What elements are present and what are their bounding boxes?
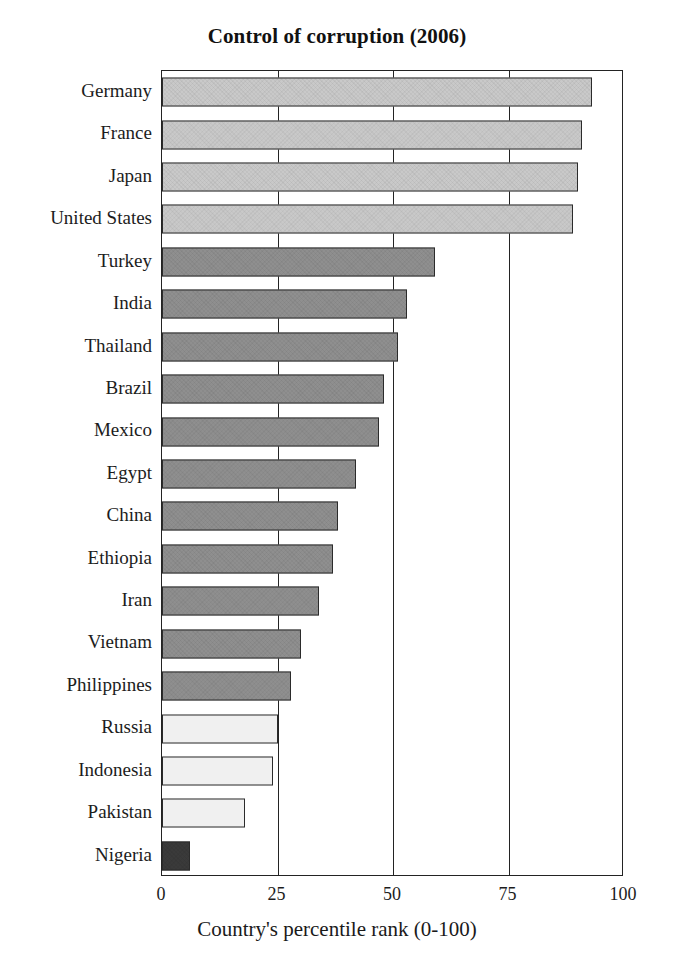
bar-mexico xyxy=(162,417,379,446)
category-label-nigeria: Nigeria xyxy=(95,834,152,876)
bar-germany xyxy=(162,78,592,107)
category-label-vietnam: Vietnam xyxy=(88,621,152,663)
plot-area xyxy=(161,70,623,876)
bar-row xyxy=(162,580,622,622)
x-axis-tick-labels: 0255075100 xyxy=(0,884,674,914)
bar-japan xyxy=(162,163,578,192)
bar-indonesia xyxy=(162,756,273,785)
category-label-brazil: Brazil xyxy=(106,367,152,409)
category-label-pakistan: Pakistan xyxy=(88,791,152,833)
bar-row xyxy=(162,835,622,877)
bar-egypt xyxy=(162,459,356,488)
category-label-united-states: United States xyxy=(50,197,152,239)
bar-thailand xyxy=(162,332,398,361)
bar-china xyxy=(162,502,338,531)
category-label-indonesia: Indonesia xyxy=(78,749,152,791)
category-label-philippines: Philippines xyxy=(66,664,152,706)
bar-pakistan xyxy=(162,799,245,828)
bar-philippines xyxy=(162,672,291,701)
bar-row xyxy=(162,453,622,495)
category-label-russia: Russia xyxy=(101,706,152,748)
category-label-france: France xyxy=(100,112,152,154)
bar-row xyxy=(162,156,622,198)
x-tick-75: 75 xyxy=(499,884,517,905)
bar-ethiopia xyxy=(162,544,333,573)
bar-row xyxy=(162,792,622,834)
category-label-iran: Iran xyxy=(121,579,152,621)
bar-row xyxy=(162,241,622,283)
chart-figure: Control of corruption (2006) GermanyFran… xyxy=(0,0,674,974)
category-label-mexico: Mexico xyxy=(94,409,152,451)
category-label-china: China xyxy=(107,494,152,536)
x-tick-25: 25 xyxy=(268,884,286,905)
bar-row xyxy=(162,495,622,537)
bar-united-states xyxy=(162,205,573,234)
category-label-india: India xyxy=(113,282,152,324)
category-label-egypt: Egypt xyxy=(107,452,152,494)
chart-title: Control of corruption (2006) xyxy=(0,24,674,49)
bar-row xyxy=(162,326,622,368)
bar-row xyxy=(162,665,622,707)
bar-row xyxy=(162,707,622,749)
bar-row xyxy=(162,368,622,410)
bar-brazil xyxy=(162,375,384,404)
bar-row xyxy=(162,198,622,240)
bar-row xyxy=(162,750,622,792)
category-label-turkey: Turkey xyxy=(98,240,152,282)
bar-row xyxy=(162,283,622,325)
bar-nigeria xyxy=(162,841,190,870)
category-label-thailand: Thailand xyxy=(84,325,152,367)
bar-india xyxy=(162,290,407,319)
bar-vietnam xyxy=(162,629,301,658)
x-tick-50: 50 xyxy=(383,884,401,905)
bar-iran xyxy=(162,587,319,616)
bar-france xyxy=(162,120,582,149)
bar-row xyxy=(162,113,622,155)
category-label-germany: Germany xyxy=(81,70,152,112)
x-tick-100: 100 xyxy=(610,884,637,905)
x-tick-0: 0 xyxy=(157,884,166,905)
category-label-ethiopia: Ethiopia xyxy=(88,537,152,579)
bar-row xyxy=(162,410,622,452)
bar-row xyxy=(162,538,622,580)
bar-row xyxy=(162,71,622,113)
category-axis-labels: GermanyFranceJapanUnited StatesTurkeyInd… xyxy=(0,70,152,876)
bar-series xyxy=(162,71,622,875)
bar-row xyxy=(162,622,622,664)
x-axis-label: Country's percentile rank (0-100) xyxy=(0,917,674,942)
category-label-japan: Japan xyxy=(109,155,152,197)
bar-turkey xyxy=(162,247,435,276)
bar-russia xyxy=(162,714,278,743)
